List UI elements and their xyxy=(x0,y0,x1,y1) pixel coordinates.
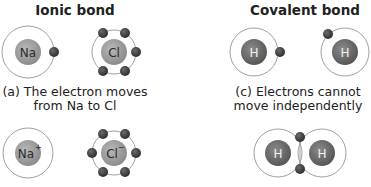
cl-ion-symbol: Cl xyxy=(106,147,118,161)
h-electron xyxy=(323,29,333,39)
covalent-caption: (c) Electrons cannot move independently xyxy=(225,85,371,113)
cl-electron xyxy=(120,28,130,38)
ionic-caption-line1: (a) The electron moves xyxy=(0,85,150,99)
ionic-caption: (a) The electron moves from Na to Cl xyxy=(0,85,150,113)
h2-symbol-left: H xyxy=(273,147,282,161)
h-atom-left: H xyxy=(230,28,285,76)
shared-electron xyxy=(295,164,305,174)
na-symbol: Na xyxy=(20,46,36,60)
na-ion: Na + xyxy=(3,128,53,178)
na-ion-symbol: Na xyxy=(18,147,34,161)
ionic-caption-line2: from Na to Cl xyxy=(0,99,150,113)
cl-ion-electron xyxy=(120,129,130,139)
na-ion-charge: + xyxy=(35,143,42,152)
cl-electron xyxy=(120,66,130,76)
cl-ion-electron xyxy=(87,148,97,158)
cl-ion-electron xyxy=(98,167,108,177)
h-atom-right: H xyxy=(321,28,369,76)
h-electron xyxy=(275,47,285,57)
cl-ion-charge: − xyxy=(118,143,125,152)
na-electron xyxy=(49,47,59,57)
cl-ion-electron xyxy=(120,167,130,177)
cl-electron xyxy=(98,66,108,76)
cl-symbol: Cl xyxy=(108,46,120,60)
cl-atom: Cl xyxy=(92,28,141,76)
h-symbol: H xyxy=(340,46,349,60)
h2-symbol-right: H xyxy=(317,147,326,161)
covalent-caption-line1: (c) Electrons cannot xyxy=(225,85,371,99)
cl-electron xyxy=(98,28,108,38)
shared-electron xyxy=(295,132,305,142)
covalent-caption-line2: move independently xyxy=(225,99,371,113)
cl-ion-electron xyxy=(98,129,108,139)
cl-ion-electron xyxy=(131,148,141,158)
h-symbol: H xyxy=(249,46,258,60)
h2-molecule: H H xyxy=(254,129,346,177)
cl-ion: Cl − xyxy=(87,129,141,177)
na-atom: Na xyxy=(2,26,59,78)
cl-electron xyxy=(131,47,141,57)
